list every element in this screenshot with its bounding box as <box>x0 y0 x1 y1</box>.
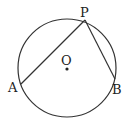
label-p: P <box>80 5 89 20</box>
label-a: A <box>7 80 18 95</box>
label-b: B <box>112 82 122 97</box>
chord-pa <box>21 20 85 84</box>
chord-pb <box>85 20 115 79</box>
label-o: O <box>61 53 72 68</box>
circle-diagram: O P A B <box>0 0 130 127</box>
